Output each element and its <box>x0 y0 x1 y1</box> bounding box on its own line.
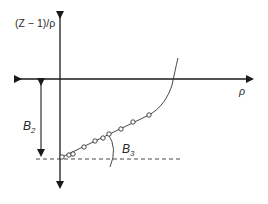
data-point <box>107 132 111 136</box>
b3-label: B3 <box>122 142 135 158</box>
data-point <box>101 136 105 140</box>
data-point <box>71 152 75 156</box>
x-axis-label: ρ <box>238 85 245 97</box>
data-point <box>147 113 151 117</box>
fitted-curve <box>60 58 178 158</box>
b3-slope-angle-arc <box>108 134 114 167</box>
compressibility-diagram: (Z − 1)/ρ ρ B2 B3 <box>0 0 268 204</box>
data-point <box>93 139 97 143</box>
data-point <box>82 145 86 149</box>
b2-label: B2 <box>23 119 36 135</box>
data-point <box>119 127 123 131</box>
y-axis-label: (Z − 1)/ρ <box>15 17 55 29</box>
data-point <box>60 155 64 159</box>
data-point <box>131 120 135 124</box>
